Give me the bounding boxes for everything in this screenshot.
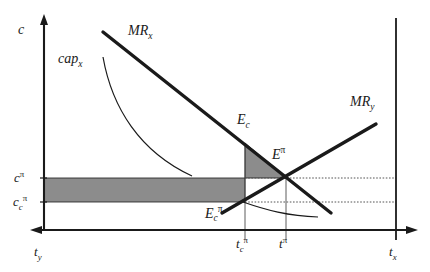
horizontal-axis-right-arrowhead — [406, 226, 418, 234]
curve-label-mr-x: MRx — [128, 24, 152, 41]
x-tick-label-t-c-pi: tcπ — [236, 236, 248, 254]
curve-label-cap-x: capx — [58, 52, 82, 69]
axis-label-t-x: tx — [389, 245, 397, 261]
point-label-e-c: Ec — [237, 113, 250, 130]
curve-label-mr-y: MRy — [350, 95, 374, 112]
economics-diagram: c MRx capx MRy Ec Eπ Ecπ cπ ccπ tcπ tπ t… — [0, 0, 430, 272]
y-tick-label-c-pi: cπ — [14, 170, 24, 184]
y-tick-label-c-c-pi: ccπ — [13, 194, 27, 212]
cap-y-curve — [243, 202, 318, 217]
diagram-canvas — [0, 0, 430, 272]
point-label-e-pi: Eπ — [272, 146, 285, 162]
horizontal-axis-left-arrowhead — [30, 226, 42, 234]
cap-x-curve — [103, 57, 192, 176]
point-label-e-c-pi: Ecπ — [205, 205, 223, 224]
left-axis-arrowhead — [40, 14, 48, 25]
shaded-rectangle — [44, 178, 245, 202]
axis-label-c: c — [18, 23, 24, 37]
axis-label-t-y: ty — [34, 245, 42, 261]
x-tick-label-t-pi: tπ — [279, 236, 287, 250]
